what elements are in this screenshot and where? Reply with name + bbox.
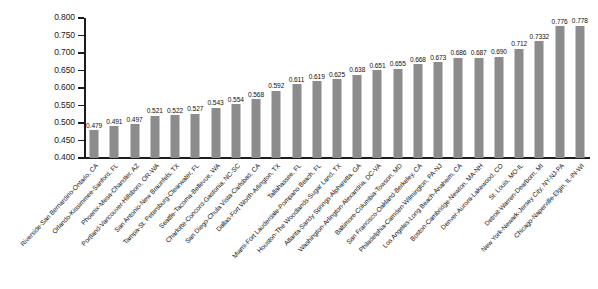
bar-value-label: 0.776 (552, 18, 568, 25)
bar-slot: 0.479 (84, 18, 104, 158)
bar[interactable] (575, 26, 584, 158)
bar[interactable] (252, 99, 261, 158)
y-axis-tick-label: 0.550 (54, 100, 75, 110)
bar-slot: 0.690 (489, 18, 509, 158)
bar-value-label: 0.497 (127, 116, 143, 123)
bar-slot: 0.778 (570, 18, 590, 158)
bar-slot: 0.521 (145, 18, 165, 158)
bar-slot: 0.668 (408, 18, 428, 158)
bar[interactable] (555, 26, 564, 158)
bar-slot: 0.497 (124, 18, 144, 158)
bar[interactable] (393, 69, 402, 158)
bar[interactable] (373, 70, 382, 158)
bar[interactable] (292, 84, 301, 158)
bar-slot: 0.687 (469, 18, 489, 158)
bar-value-label: 0.655 (390, 60, 406, 67)
y-axis-tick-label: 0.500 (54, 117, 75, 127)
bar-slot: 0.611 (286, 18, 306, 158)
bar-slot: 0.554 (226, 18, 246, 158)
bar-value-label: 0.611 (289, 76, 305, 83)
bar[interactable] (211, 108, 220, 158)
y-axis-tick-label: 0.750 (54, 30, 75, 40)
bar-slot: 0.543 (205, 18, 225, 158)
bar-value-label: 0.522 (167, 107, 183, 114)
y-axis-tick-label: 0.650 (54, 65, 75, 75)
bar[interactable] (171, 115, 180, 158)
bar-slot: 0.776 (550, 18, 570, 158)
bar[interactable] (110, 126, 119, 158)
bar[interactable] (130, 124, 139, 158)
y-axis-tick-label: 0.450 (54, 135, 75, 145)
bar[interactable] (353, 75, 362, 158)
bar[interactable] (474, 58, 483, 158)
bar-value-label: 0.778 (572, 17, 588, 24)
bar[interactable] (515, 49, 524, 158)
y-axis-tick-label: 0.800 (54, 12, 75, 22)
bar-slot: 0.522 (165, 18, 185, 158)
bar[interactable] (494, 57, 503, 159)
bar[interactable] (413, 64, 422, 158)
bar-value-label: 0.568 (248, 91, 264, 98)
bar-value-label: 0.619 (309, 73, 325, 80)
bar-slot: 0.651 (367, 18, 387, 158)
bar-value-label: 0.521 (147, 107, 163, 114)
bar-value-label: 0.625 (329, 71, 345, 78)
bar-slot: 0.712 (509, 18, 529, 158)
bar-slot: 0.655 (388, 18, 408, 158)
bar-value-label: 0.673 (430, 54, 446, 61)
bar[interactable] (332, 79, 341, 158)
bar-value-label: 0.527 (187, 105, 203, 112)
x-axis-label-slot: Chicago-Naperville-Elgin, IL-IN-WI (570, 160, 590, 288)
bar[interactable] (312, 81, 321, 158)
bar-value-label: 0.491 (106, 118, 122, 125)
bar-slot: 0.625 (327, 18, 347, 158)
bar-value-label: 0.690 (491, 48, 507, 55)
bar-slot: 0.686 (448, 18, 468, 158)
bar-value-label: 0.543 (208, 99, 224, 106)
bar-slot: 0.592 (266, 18, 286, 158)
bar[interactable] (90, 130, 99, 158)
bar[interactable] (272, 91, 281, 158)
bar-slot: 0.7332 (529, 18, 549, 158)
bar[interactable] (191, 114, 200, 158)
bar-value-label: 0.712 (511, 40, 527, 47)
x-axis-labels: Riverside-San Bernardino-Ontario, CAOrla… (84, 160, 590, 288)
bar-slot: 0.527 (185, 18, 205, 158)
bar[interactable] (434, 62, 443, 158)
bar-chart: 0.8000.7500.7000.6500.6000.5500.5000.450… (0, 0, 598, 289)
y-axis-tick-label: 0.400 (54, 152, 75, 162)
y-axis-tick-label: 0.700 (54, 47, 75, 57)
bar-slot: 0.638 (347, 18, 367, 158)
bar-slot: 0.619 (307, 18, 327, 158)
bar-slot: 0.673 (428, 18, 448, 158)
bar-value-label: 0.651 (369, 62, 385, 69)
bar[interactable] (454, 58, 463, 158)
bar-value-label: 0.687 (471, 49, 487, 56)
bar-value-label: 0.668 (410, 56, 426, 63)
y-axis-tick-label: 0.600 (54, 82, 75, 92)
bar[interactable] (535, 41, 544, 158)
bar-slot: 0.491 (104, 18, 124, 158)
bar[interactable] (150, 116, 159, 158)
bar-value-label: 0.592 (268, 82, 284, 89)
bar-value-label: 0.7332 (530, 33, 550, 40)
bar-slot: 0.568 (246, 18, 266, 158)
bar-value-label: 0.638 (349, 66, 365, 73)
bar-value-label: 0.479 (86, 122, 102, 129)
bar-series: 0.4790.4910.4970.5210.5220.5270.5430.554… (84, 18, 590, 158)
bar[interactable] (231, 104, 240, 158)
bar-value-label: 0.686 (450, 49, 466, 56)
bar-value-label: 0.554 (228, 96, 244, 103)
